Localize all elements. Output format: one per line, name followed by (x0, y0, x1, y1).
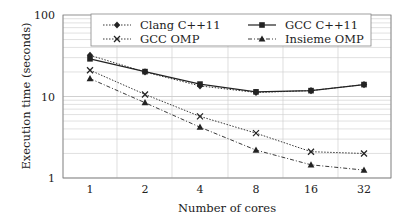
square-marker-icon (87, 56, 93, 62)
execution-time-chart: 110100 12481632 Number of cores Executio… (0, 0, 412, 218)
square-marker-icon (308, 88, 314, 94)
square-marker-icon (361, 82, 367, 88)
legend: Clang C++11GCC C++11GCC OMPInsieme OMP (91, 14, 371, 46)
series-line (90, 59, 364, 92)
x-tick-label: 32 (357, 183, 371, 196)
series-line (90, 55, 364, 92)
triangle-marker-icon (87, 75, 94, 81)
square-marker-icon (197, 81, 203, 87)
y-tick-label: 10 (41, 91, 55, 104)
legend-label: Insieme OMP (285, 32, 364, 46)
series-layer (87, 52, 368, 173)
x-axis-label: Number of cores (178, 201, 276, 215)
square-marker-icon (259, 22, 265, 28)
triangle-marker-icon (197, 124, 204, 130)
square-marker-icon (253, 89, 259, 95)
triangle-marker-icon (253, 146, 260, 152)
series-insieme-omp (87, 75, 368, 173)
x-tick-label: 2 (142, 183, 149, 196)
legend-label: GCC C++11 (285, 18, 358, 32)
square-marker-icon (142, 69, 148, 75)
y-axis-ticks: 110100 (34, 9, 55, 185)
x-tick-label: 8 (253, 183, 260, 196)
x-tick-label: 16 (304, 183, 318, 196)
x-tick-label: 1 (87, 183, 94, 196)
x-marker-icon (87, 67, 93, 73)
y-tick-label: 100 (34, 9, 55, 22)
series-gcc-omp (87, 67, 367, 156)
x-axis-ticks: 12481632 (87, 183, 372, 196)
series-line (90, 70, 364, 153)
y-axis-label: Execution time (seconds) (19, 22, 33, 169)
legend-label: GCC OMP (140, 32, 200, 46)
y-tick-label: 1 (48, 172, 55, 185)
x-marker-icon (253, 130, 259, 136)
legend-label: Clang C++11 (140, 18, 220, 32)
x-tick-label: 4 (197, 183, 204, 196)
